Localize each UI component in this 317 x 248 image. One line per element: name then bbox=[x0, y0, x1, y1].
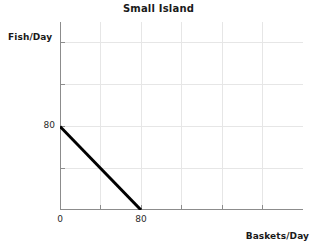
y-axis-title: Fish/Day bbox=[8, 32, 52, 42]
x-axis-title: Baskets/Day bbox=[246, 231, 309, 241]
x-tick-label-0: 0 bbox=[47, 214, 73, 224]
x-tick-label-80: 80 bbox=[128, 214, 154, 224]
y-tick-label-80: 80 bbox=[29, 120, 55, 130]
plot-svg bbox=[60, 22, 303, 210]
vertical-gridlines bbox=[60, 22, 263, 210]
chart-figure: Small Island Fish/Day Baskets/Day 80 0 8… bbox=[0, 0, 317, 248]
chart-title: Small Island bbox=[0, 3, 317, 14]
plot-area bbox=[60, 22, 303, 210]
